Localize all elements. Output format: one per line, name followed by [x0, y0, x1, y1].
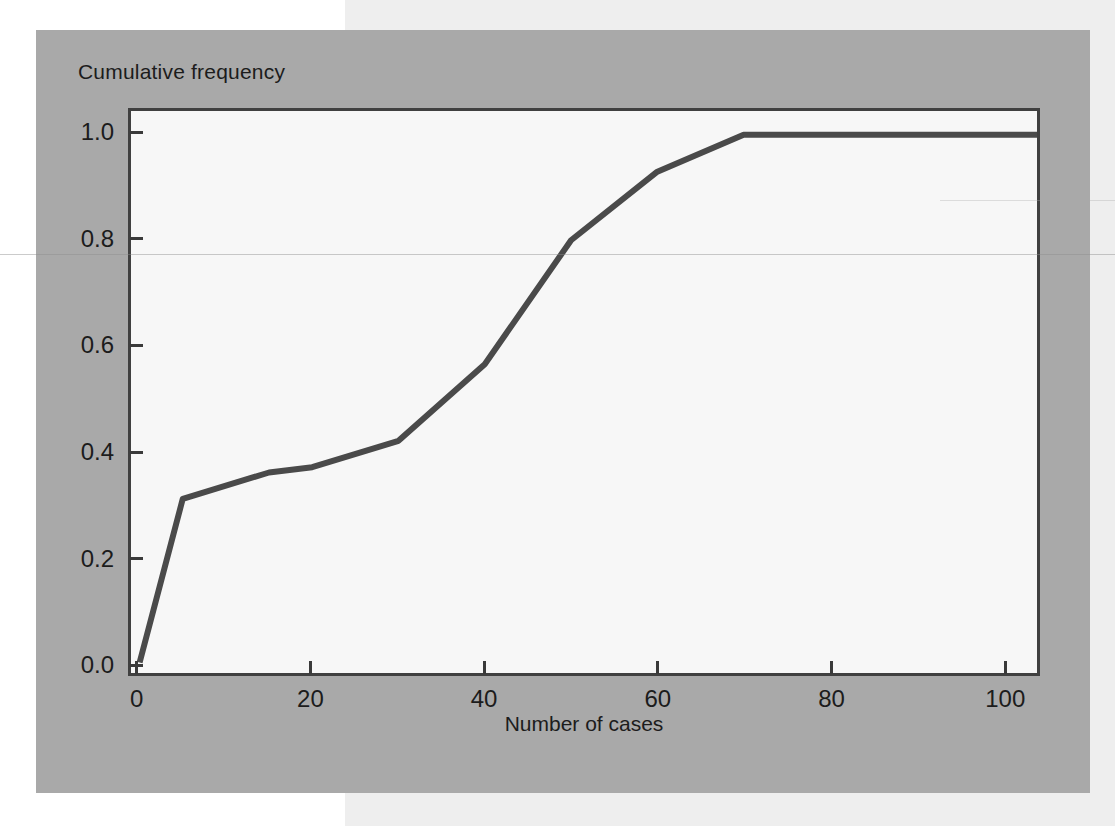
page-root: Cumulative frequency 0.00.20.40.60.81.00… [0, 0, 1115, 826]
x-axis-tick-label: 60 [618, 685, 698, 713]
y-axis-label: Cumulative frequency [78, 60, 285, 84]
y-axis-tick [130, 451, 143, 454]
x-axis-tick [656, 661, 659, 674]
x-axis-tick-label: 100 [965, 685, 1045, 713]
x-axis-tick [830, 661, 833, 674]
y-axis-tick-label: 1.0 [44, 118, 114, 146]
y-axis-tick [130, 237, 143, 240]
x-axis-tick [135, 661, 138, 674]
x-axis-tick-label: 0 [97, 685, 177, 713]
y-axis-tick [130, 557, 143, 560]
y-axis-tick-label: 0.8 [44, 225, 114, 253]
y-axis-tick-label: 0.2 [44, 545, 114, 573]
x-axis-tick-label: 40 [444, 685, 524, 713]
x-axis-tick [309, 661, 312, 674]
y-axis-tick-label: 0.4 [44, 438, 114, 466]
x-axis-tick-label: 20 [270, 685, 350, 713]
x-axis-tick [1004, 661, 1007, 674]
cumulative-frequency-line-chart [131, 111, 1037, 673]
x-axis-tick-label: 80 [792, 685, 872, 713]
x-axis-label: Number of cases [128, 712, 1040, 736]
y-axis-tick [130, 131, 143, 134]
y-axis-tick-label: 0.0 [44, 651, 114, 679]
x-axis-tick [483, 661, 486, 674]
plot-area [128, 108, 1040, 676]
series-line-cumulative-frequency [140, 135, 1037, 663]
y-axis-tick-label: 0.6 [44, 331, 114, 359]
y-axis-tick [130, 344, 143, 347]
